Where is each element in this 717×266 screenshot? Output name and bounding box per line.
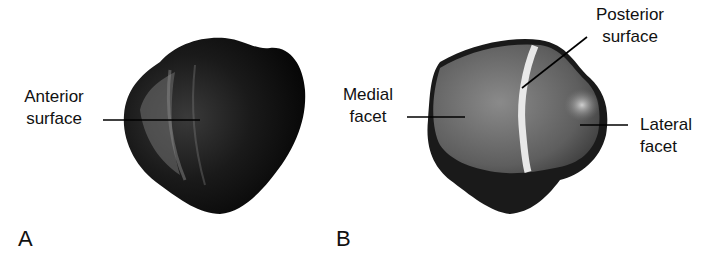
label-lateral-facet: Lateral facet bbox=[640, 114, 715, 158]
label-anterior-surface: Anterior surface bbox=[14, 86, 94, 130]
patella-anterior-view bbox=[103, 38, 305, 214]
label-posterior-surface-line2: surface bbox=[590, 26, 670, 48]
label-lateral-facet-line1: Lateral bbox=[640, 114, 715, 136]
label-posterior-surface-line1: Posterior bbox=[590, 4, 670, 26]
patella-posterior-view bbox=[407, 37, 628, 214]
label-posterior-surface: Posterior surface bbox=[590, 4, 670, 48]
label-medial-facet-line1: Medial bbox=[333, 84, 403, 106]
panel-label-b: B bbox=[336, 226, 351, 252]
panel-label-a: A bbox=[18, 226, 33, 252]
label-medial-facet: Medial facet bbox=[333, 84, 403, 128]
label-lateral-facet-line2: facet bbox=[640, 136, 715, 158]
label-medial-facet-line2: facet bbox=[333, 106, 403, 128]
label-anterior-surface-line1: Anterior bbox=[14, 86, 94, 108]
lateral-facet-highlight bbox=[564, 89, 600, 121]
label-anterior-surface-line2: surface bbox=[14, 108, 94, 130]
